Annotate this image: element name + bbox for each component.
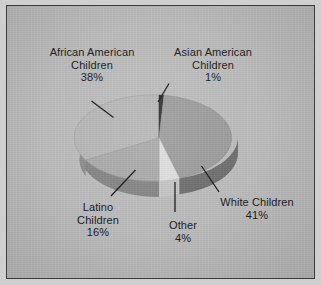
pie-label-other-pct: 4%: [150, 232, 216, 245]
pie-label-asian-american-line1: Asian American: [174, 46, 252, 58]
pie-label-african-american: African American Children 38%: [34, 46, 150, 84]
pie-label-other-line1: Other: [169, 219, 197, 231]
pie-label-latino-line1: Latino: [83, 201, 114, 213]
chart-frame: African American Children 38% Asian Amer…: [6, 5, 315, 279]
pie-label-latino-line2: Children: [77, 214, 119, 226]
pie-label-african-american-line1: African American: [50, 46, 135, 58]
pie-top-face: [74, 95, 231, 181]
pie-wall-other: [159, 178, 179, 197]
pie-label-white: White Children 41%: [205, 196, 309, 221]
pie-label-asian-american-pct: 1%: [155, 71, 271, 84]
pie-label-latino: Latino Children 16%: [60, 201, 136, 239]
pie-label-african-american-pct: 38%: [34, 71, 150, 84]
pie-label-african-american-line2: Children: [71, 59, 113, 71]
pie-label-asian-american: Asian American Children 1%: [155, 46, 271, 84]
pie-label-asian-american-line2: Children: [192, 59, 234, 71]
pie-chart-screenshot: African American Children 38% Asian Amer…: [0, 0, 321, 285]
pie-label-white-line1: White Children: [220, 196, 294, 208]
pie-label-other: Other 4%: [150, 219, 216, 244]
pie-label-latino-pct: 16%: [60, 226, 136, 239]
pie-label-white-pct: 41%: [205, 209, 309, 222]
